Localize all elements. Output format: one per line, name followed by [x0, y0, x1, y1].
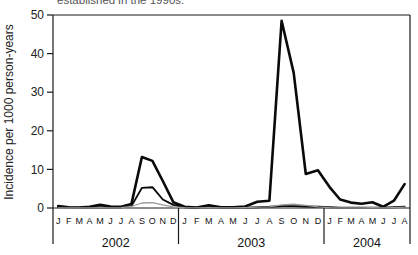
- month-label: A: [87, 216, 93, 226]
- month-label: O: [149, 216, 156, 226]
- y-tick-label: 50: [31, 8, 45, 22]
- month-label: M: [96, 216, 104, 226]
- month-label: F: [337, 216, 343, 226]
- y-tick-label: 30: [31, 85, 45, 99]
- month-label: M: [75, 216, 83, 226]
- month-label: A: [402, 216, 408, 226]
- month-label: D: [170, 216, 177, 226]
- year-label: 2003: [237, 236, 265, 250]
- year-label: 2002: [102, 236, 130, 250]
- month-label: A: [128, 216, 134, 226]
- month-label: J: [255, 216, 260, 226]
- month-label: S: [279, 216, 285, 226]
- y-tick-label: 40: [31, 47, 45, 61]
- month-label: M: [205, 216, 213, 226]
- month-label: J: [56, 216, 61, 226]
- y-tick-label: 20: [31, 124, 45, 138]
- month-label: J: [108, 216, 113, 226]
- plot-frame: [53, 15, 410, 244]
- month-label: A: [218, 216, 224, 226]
- y-axis-title: Incidence per 1000 person-years: [2, 24, 16, 199]
- month-label: S: [139, 216, 145, 226]
- y-tick-label: 10: [31, 163, 45, 177]
- incidence-line-chart: established in the 1990s. Incidence per …: [0, 0, 418, 255]
- month-label: J: [119, 216, 124, 226]
- month-label: M: [229, 216, 237, 226]
- data-series: [58, 21, 404, 208]
- month-label: J: [182, 216, 187, 226]
- month-label: A: [266, 216, 272, 226]
- y-tick-label: 0: [37, 201, 44, 215]
- y-axis-ticks: 01020304050: [31, 8, 53, 215]
- month-label: M: [347, 216, 355, 226]
- month-label: M: [369, 216, 377, 226]
- month-label: N: [303, 216, 310, 226]
- figure-chart: established in the 1990s. Incidence per …: [0, 0, 418, 255]
- month-label: F: [194, 216, 200, 226]
- month-label: A: [359, 216, 365, 226]
- month-label: D: [315, 216, 322, 226]
- series-medium-black-line: [58, 187, 404, 207]
- month-label: F: [66, 216, 72, 226]
- series-heavy-black-line: [58, 21, 404, 208]
- month-label: J: [392, 216, 397, 226]
- month-label: J: [381, 216, 386, 226]
- month-label: J: [327, 216, 332, 226]
- x-axis-labels: JFMAMJJASOND2002JFMAMJJASOND2003JFMAMJJA…: [56, 216, 408, 250]
- month-label: O: [290, 216, 297, 226]
- month-label: N: [160, 216, 167, 226]
- month-label: J: [243, 216, 248, 226]
- caption-fragment-clipped: established in the 1990s.: [57, 0, 184, 6]
- year-label: 2004: [353, 236, 381, 250]
